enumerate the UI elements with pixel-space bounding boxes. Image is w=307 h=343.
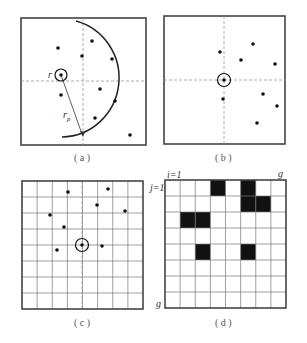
panel-c: ( c ) [22, 181, 143, 329]
data-point [255, 121, 259, 125]
panel-b-center-point [222, 78, 226, 82]
panel-a-label-rp: rp [63, 109, 71, 123]
panel-b: ( b ) [164, 16, 285, 164]
data-point [93, 116, 97, 120]
data-point [261, 92, 265, 96]
data-point [95, 203, 99, 207]
data-point [62, 225, 66, 229]
data-point [48, 213, 52, 217]
data-point [239, 58, 243, 62]
data-point [98, 87, 102, 91]
data-point [66, 190, 70, 194]
filled-cell [210, 180, 225, 196]
panel-d-label-j: j=1 [148, 182, 165, 193]
panel-d: i=1 j=1 g g ( d ) [148, 168, 286, 329]
data-point [100, 244, 104, 248]
panel-d-label-i: i=1 [167, 169, 182, 180]
panel-d-label-g-left: g [156, 298, 161, 309]
panel-a-radius-arc [62, 21, 119, 137]
data-point [218, 50, 222, 54]
panel-a-frame [21, 18, 146, 145]
filled-cell [195, 212, 210, 228]
panel-d-label-g-top: g [278, 168, 283, 179]
panel-b-points [218, 42, 279, 125]
panel-b-caption: ( b ) [215, 152, 232, 164]
data-point [251, 42, 255, 46]
figure-canvas: r rp ( a ) ( b ) ( c ) i=1 j=1 g g ( d ) [0, 0, 307, 343]
data-point [90, 39, 94, 43]
data-point [59, 93, 63, 97]
data-point [56, 46, 60, 50]
filled-cell [256, 196, 271, 212]
panel-a: r rp ( a ) [21, 18, 146, 164]
data-point [273, 62, 277, 66]
data-point [106, 187, 110, 191]
data-point [123, 209, 127, 213]
data-point [110, 57, 114, 61]
filled-cell [241, 244, 256, 260]
filled-cell [195, 244, 210, 260]
panel-c-caption: ( c ) [74, 317, 90, 329]
data-point [55, 248, 59, 252]
filled-cell [180, 212, 195, 228]
panel-a-radius-arrow [61, 75, 82, 134]
data-point [113, 99, 117, 103]
filled-cell [241, 196, 256, 212]
data-point [221, 97, 225, 101]
panel-d-caption: ( d ) [215, 317, 232, 329]
data-point [128, 133, 132, 137]
data-point [80, 54, 84, 58]
panel-c-center-point [80, 243, 84, 247]
panel-a-label-r: r [48, 69, 52, 80]
filled-cell [241, 180, 256, 196]
panel-a-caption: ( a ) [74, 152, 90, 164]
data-point [275, 104, 279, 108]
